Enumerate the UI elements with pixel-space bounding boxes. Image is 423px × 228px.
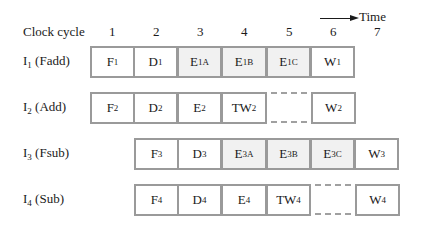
stall-gap: [267, 92, 311, 124]
stage-cell: TW2: [221, 92, 267, 124]
stage-cell: D1: [133, 46, 178, 78]
instruction-label: I3 (Fsub): [23, 145, 69, 161]
stage-cell: E3C: [310, 138, 355, 170]
stage-cell: E3B: [266, 138, 311, 170]
arrowhead-icon: [350, 15, 359, 21]
column-header-4: 4: [234, 24, 254, 40]
right-arrow-icon: [320, 18, 352, 19]
stage-name: TW: [276, 192, 296, 208]
dashed-line: [271, 92, 307, 94]
stage-name: E: [238, 192, 246, 208]
stage-name: E: [279, 146, 287, 162]
column-header-5: 5: [279, 24, 299, 40]
stage-name: D: [149, 54, 158, 70]
dashed-line: [271, 121, 307, 123]
stage-name: E: [323, 146, 331, 162]
stage-name: W: [368, 146, 380, 162]
stage-cell: E2: [177, 92, 222, 124]
stage-name: TW: [232, 100, 252, 116]
stage-cell: E1A: [177, 46, 222, 78]
dashed-line: [315, 213, 351, 215]
stage-name: F: [151, 192, 158, 208]
instruction-label: I4 (Sub): [23, 191, 64, 207]
instruction-label: I1 (Fadd): [23, 53, 70, 69]
stage-cell: W2: [311, 92, 356, 124]
stage-cell: E4: [221, 184, 267, 216]
stage-name: E: [279, 54, 287, 70]
stage-name: D: [149, 100, 158, 116]
stage-cell: D4: [177, 184, 222, 216]
stall-gap: [311, 184, 355, 216]
stage-cell: F4: [134, 184, 179, 216]
stage-name: E: [190, 54, 198, 70]
column-header-7: 7: [367, 24, 387, 40]
column-header-1: 1: [102, 24, 122, 40]
clock-cycle-label: Clock cycle: [23, 24, 85, 40]
stage-name: F: [107, 54, 114, 70]
stage-name: F: [107, 100, 114, 116]
stage-cell: F1: [90, 46, 135, 78]
time-label: Time: [359, 9, 386, 25]
stage-name: W: [325, 100, 337, 116]
stage-name: E: [193, 100, 201, 116]
stage-cell: D3: [177, 138, 222, 170]
stage-name: W: [324, 54, 336, 70]
stage-cell: F2: [90, 92, 135, 124]
stage-name: D: [193, 146, 202, 162]
stage-name: E: [235, 146, 243, 162]
instruction-label: I2 (Add): [23, 99, 66, 115]
dashed-line: [315, 184, 351, 186]
stage-cell: W3: [354, 138, 399, 170]
stage-name: D: [193, 192, 202, 208]
stage-cell: E1C: [266, 46, 311, 78]
column-header-6: 6: [323, 24, 343, 40]
column-header-3: 3: [190, 24, 210, 40]
stage-cell: E1B: [221, 46, 267, 78]
stage-name: F: [151, 146, 158, 162]
stage-cell: TW4: [266, 184, 311, 216]
stage-name: E: [235, 54, 243, 70]
column-header-2: 2: [146, 24, 166, 40]
stage-cell: W4: [355, 184, 400, 216]
stage-cell: E3A: [221, 138, 267, 170]
stage-cell: D2: [133, 92, 178, 124]
stage-cell: W1: [310, 46, 355, 78]
stage-cell: F3: [134, 138, 179, 170]
stage-name: W: [369, 192, 381, 208]
